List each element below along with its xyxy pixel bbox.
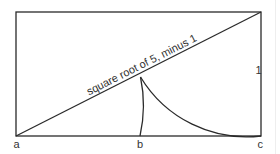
- point-label-b: b: [137, 138, 143, 150]
- point-label-c: c: [258, 138, 264, 150]
- golden-ratio-diagram: square root of 5, minus 1 1 a b c: [0, 0, 280, 154]
- diagonal-label: square root of 5, minus 1: [84, 32, 198, 98]
- side-label: 1: [256, 64, 262, 76]
- arc-to-c: [141, 77, 262, 137]
- point-label-a: a: [14, 138, 21, 150]
- diagonal-line: [16, 12, 261, 136]
- arc-to-b: [140, 77, 143, 136]
